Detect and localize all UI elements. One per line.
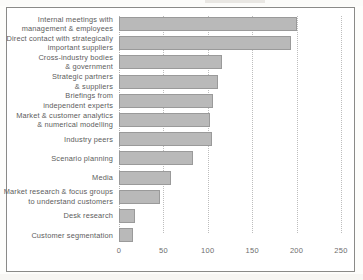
bar	[119, 228, 133, 242]
bar-chart-plot-area: 050100150200250Internal meetings with ma…	[7, 8, 354, 271]
x-axis-tick-label: 100	[201, 246, 214, 255]
bar	[119, 190, 160, 204]
category-label: Customer segmentation	[0, 231, 113, 240]
category-label: Market & customer analytics & numerical …	[0, 111, 113, 130]
page-scan-bottom-edge	[0, 274, 363, 280]
x-axis-tick-label: 200	[290, 246, 303, 255]
category-label: Cross-industry bodies & government	[0, 53, 113, 72]
category-label: Direct contact with strategically import…	[0, 34, 113, 53]
category-label: Strategic partners & suppliers	[0, 72, 113, 91]
category-label: Industry peers	[0, 135, 113, 144]
page-scan-top-edge	[0, 0, 363, 6]
bar	[119, 17, 297, 31]
bar	[119, 36, 291, 50]
bar	[119, 171, 171, 185]
category-label: Briefings from independent experts	[0, 91, 113, 110]
category-label: Market research & focus groups to unders…	[0, 187, 113, 206]
x-axis-tick-label: 250	[334, 246, 347, 255]
bar	[119, 151, 193, 165]
chart-frame: 050100150200250Internal meetings with ma…	[6, 7, 355, 272]
x-axis-tick-label: 0	[117, 246, 121, 255]
gridline-250	[341, 16, 342, 233]
bar	[119, 75, 218, 89]
category-label: Desk research	[0, 211, 113, 220]
bar	[119, 113, 210, 127]
bar	[119, 132, 212, 146]
category-label: Scenario planning	[0, 154, 113, 163]
bar	[119, 55, 222, 69]
scan-artifact-mark	[205, 0, 265, 3]
x-axis-tick-label: 50	[159, 246, 168, 255]
x-axis-tick-label: 150	[245, 246, 258, 255]
category-label: Media	[0, 173, 113, 182]
bar	[119, 94, 213, 108]
bar	[119, 209, 135, 223]
gridline-200	[297, 16, 298, 233]
category-label: Internal meetings with management & empl…	[0, 15, 113, 34]
